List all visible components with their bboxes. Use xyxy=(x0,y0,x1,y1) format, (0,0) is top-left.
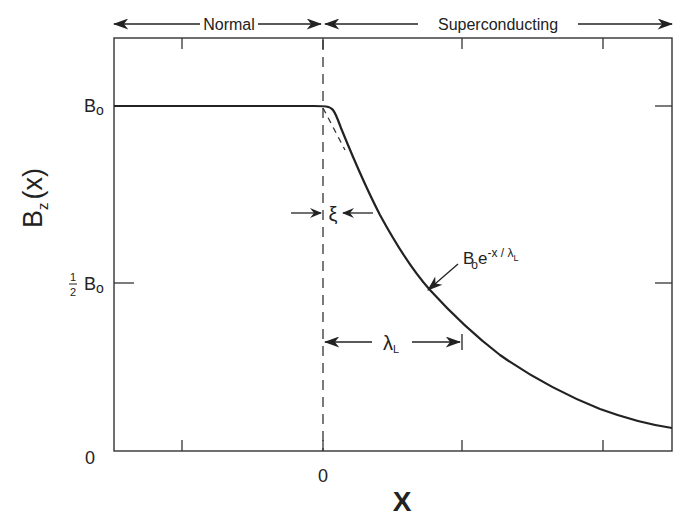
plot-frame xyxy=(114,38,672,451)
formula-pointer-arrow xyxy=(428,264,458,290)
penetration-depth-annotation: λL xyxy=(325,332,462,355)
y-axis-title: Bz(x) xyxy=(18,168,51,228)
svg-text:2: 2 xyxy=(70,286,76,298)
superconducting-region-label: Superconducting xyxy=(438,16,558,33)
field-profile-curve xyxy=(114,106,672,428)
y-tick-half-b0: 1 2 Bo xyxy=(69,271,104,298)
y-tick-b0: Bo xyxy=(84,96,104,118)
penetration-depth-diagram: Normal Superconducting ξ xyxy=(0,0,685,527)
coherence-length-annotation: ξ xyxy=(291,203,373,225)
exponential-formula-annotation: Boe-x / λL xyxy=(428,246,519,290)
normal-region-label: Normal xyxy=(203,16,255,33)
xi-symbol: ξ xyxy=(329,203,338,225)
region-indicators: Normal Superconducting xyxy=(114,16,672,33)
tick-marks xyxy=(114,38,672,451)
svg-text:Bo: Bo xyxy=(84,274,104,296)
x-tick-zero: 0 xyxy=(318,466,328,486)
x-axis-title: X xyxy=(393,486,412,517)
svg-text:1: 1 xyxy=(70,271,76,283)
y-tick-labels: Bo 1 2 Bo 0 xyxy=(69,96,104,468)
lambda-symbol: λL xyxy=(383,332,399,355)
formula-label: Boe-x / λL xyxy=(463,246,519,272)
y-tick-zero: 0 xyxy=(85,448,95,468)
